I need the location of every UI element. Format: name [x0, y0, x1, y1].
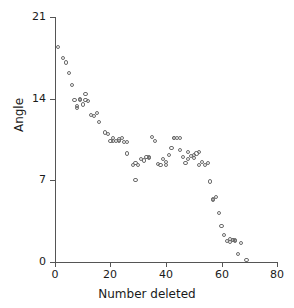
data-point [139, 157, 143, 161]
data-point [125, 140, 129, 144]
data-point [117, 139, 121, 143]
data-point [164, 160, 168, 164]
data-point [217, 211, 221, 215]
data-point [122, 140, 126, 144]
data-point [111, 139, 115, 143]
data-point [75, 104, 79, 108]
data-point [178, 148, 182, 152]
data-point [231, 238, 235, 242]
data-point [181, 155, 185, 159]
data-point [161, 157, 165, 161]
data-point [133, 178, 137, 182]
data-point [189, 154, 193, 158]
data-point [211, 198, 215, 202]
x-tick-label-80: 80 [267, 268, 287, 281]
data-point [167, 153, 171, 157]
data-point [108, 139, 112, 143]
data-point [64, 60, 68, 64]
data-point [147, 155, 151, 159]
data-point [200, 160, 204, 164]
data-point [61, 56, 65, 60]
data-point [239, 241, 243, 245]
data-point [169, 146, 173, 150]
data-point [136, 163, 140, 167]
y-tick-label-14: 14 [32, 92, 46, 105]
data-point [75, 106, 79, 110]
data-point [233, 238, 237, 242]
data-point [95, 111, 99, 115]
data-point [192, 153, 196, 157]
data-point [197, 150, 201, 154]
data-point [106, 132, 110, 136]
data-point [192, 156, 196, 160]
data-point [70, 83, 74, 87]
data-point [183, 161, 187, 165]
data-point [103, 130, 107, 134]
data-point [175, 136, 179, 140]
data-point [172, 136, 176, 140]
y-tick-label-21: 21 [32, 10, 46, 23]
data-point [219, 224, 223, 228]
data-point [208, 179, 212, 183]
data-point [233, 239, 237, 243]
data-point [206, 161, 210, 165]
y-tick-label-0: 0 [39, 255, 46, 268]
data-point [228, 240, 232, 244]
data-point [72, 98, 76, 102]
data-point [78, 97, 82, 101]
data-point [142, 158, 146, 162]
data-point [186, 150, 190, 154]
data-point [111, 136, 115, 140]
data-point [156, 162, 160, 166]
x-tick-label-40: 40 [156, 268, 176, 281]
data-point [231, 238, 235, 242]
data-point [214, 195, 218, 199]
data-point [225, 239, 229, 243]
data-point [228, 237, 232, 241]
x-tick-label-60: 60 [212, 268, 232, 281]
data-point [178, 136, 182, 140]
x-tick-label-20: 20 [100, 268, 120, 281]
data-point [222, 233, 226, 237]
data-point [83, 98, 87, 102]
data-point [172, 136, 176, 140]
y-axis-line [55, 17, 56, 263]
y-tick-7 [50, 180, 55, 181]
scatter-plot: 0 7 14 21 0 20 40 60 80 Angle Number del… [0, 0, 294, 308]
data-point [153, 139, 157, 143]
data-point [158, 163, 162, 167]
data-point [120, 136, 124, 140]
data-point [78, 98, 82, 102]
data-point [203, 163, 207, 167]
data-point [236, 252, 240, 256]
data-point [125, 151, 129, 155]
y-tick-label-7: 7 [39, 173, 46, 186]
data-point [197, 163, 201, 167]
x-tick-40 [166, 262, 167, 267]
x-tick-label-0: 0 [45, 268, 65, 281]
data-point [92, 114, 96, 118]
data-point [81, 102, 85, 106]
data-point [131, 163, 135, 167]
data-point [86, 99, 90, 103]
x-tick-60 [222, 262, 223, 267]
y-tick-14 [50, 99, 55, 100]
data-point [117, 137, 121, 141]
data-point [164, 163, 168, 167]
y-tick-21 [50, 17, 55, 18]
x-tick-80 [277, 262, 278, 267]
data-point [114, 139, 118, 143]
data-point [144, 155, 148, 159]
x-tick-0 [55, 262, 56, 267]
data-point [211, 197, 215, 201]
data-point [67, 71, 71, 75]
data-point [89, 113, 93, 117]
data-point [150, 135, 154, 139]
data-point [147, 156, 151, 160]
data-point [186, 157, 190, 161]
data-point [97, 120, 101, 124]
y-axis-title: Angle [12, 98, 26, 132]
x-tick-20 [110, 262, 111, 267]
data-point [83, 92, 87, 96]
x-axis-title: Number deleted [0, 287, 294, 301]
